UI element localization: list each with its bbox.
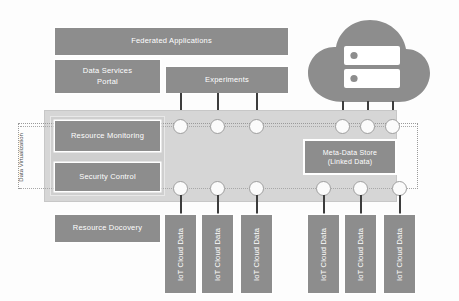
experiments-label: Experiments xyxy=(205,75,249,85)
stem-bottom-3 xyxy=(256,195,258,215)
stem-bottom-6 xyxy=(399,195,401,215)
security-control-box: Security Control xyxy=(55,163,160,191)
connector-node-bottom-4 xyxy=(316,181,331,196)
iot-cloud-data-box: IoT Cloud Data xyxy=(165,215,196,293)
iot-cloud-data-label: IoT Cloud Data xyxy=(356,227,365,280)
data-services-portal-label-line2: Portal xyxy=(83,77,132,87)
iot-cloud-data-box: IoT Cloud Data xyxy=(345,215,376,293)
connector-node-top-1 xyxy=(173,119,188,134)
meta-data-store-label-line1: Meta-Data Store xyxy=(323,148,377,157)
connector-node-top-3 xyxy=(249,119,264,134)
data-services-portal-label-line1: Data Services xyxy=(83,66,132,76)
connector-node-top-4 xyxy=(335,119,350,134)
connector-node-bottom-3 xyxy=(249,181,264,196)
connector-node-top-2 xyxy=(210,119,225,134)
iot-cloud-data-box: IoT Cloud Data xyxy=(241,215,272,293)
connector-node-bottom-1 xyxy=(173,181,188,196)
iot-cloud-data-label: IoT Cloud Data xyxy=(395,227,404,280)
iot-cloud-data-box: IoT Cloud Data xyxy=(308,215,339,293)
stem-bottom-5 xyxy=(360,195,362,215)
iot-cloud-data-label: IoT Cloud Data xyxy=(252,227,261,280)
connector-node-bottom-2 xyxy=(210,181,225,196)
cloud-server-icon xyxy=(300,14,435,112)
iot-cloud-data-box: IoT Cloud Data xyxy=(202,215,233,293)
connector-node-top-5 xyxy=(360,119,375,134)
security-control-label: Security Control xyxy=(79,172,136,182)
connector-node-bottom-6 xyxy=(392,181,407,196)
connector-node-top-6 xyxy=(385,119,400,134)
experiments-box: Experiments xyxy=(166,67,288,93)
iot-cloud-data-label: IoT Cloud Data xyxy=(176,227,185,280)
stem-bottom-1 xyxy=(180,195,182,215)
data-services-portal-box: Data Services Portal xyxy=(55,60,160,93)
meta-data-store-label-line2: (Linked Data) xyxy=(323,157,377,166)
iot-cloud-data-label: IoT Cloud Data xyxy=(213,227,222,280)
connector-node-bottom-5 xyxy=(353,181,368,196)
resource-discovery-box: Resource Docovery xyxy=(55,215,160,242)
federated-applications-box: Federated Applications xyxy=(55,28,288,55)
federated-applications-label: Federated Applications xyxy=(131,36,212,46)
architecture-diagram: Federated Applications Data Services Por… xyxy=(0,0,459,301)
iot-cloud-data-box: IoT Cloud Data xyxy=(384,215,415,293)
meta-data-store-box: Meta-Data Store (Linked Data) xyxy=(305,141,395,173)
stem-bottom-2 xyxy=(217,195,219,215)
resource-monitoring-box: Resource Monitoring xyxy=(55,121,160,151)
resource-discovery-label: Resource Docovery xyxy=(73,223,142,233)
resource-monitoring-label: Resource Monitoring xyxy=(71,131,144,141)
iot-cloud-data-label: IoT Cloud Data xyxy=(319,227,328,280)
stem-bottom-4 xyxy=(323,195,325,215)
